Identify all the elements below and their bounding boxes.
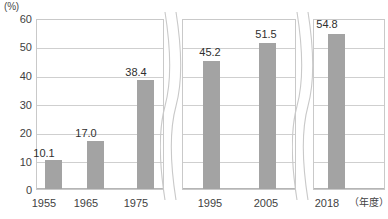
x-tick-2005: 2005 — [243, 197, 289, 209]
gridline-30 — [183, 105, 295, 106]
bar-label-1955: 10.1 — [24, 147, 64, 159]
bar-label-2018: 54.8 — [307, 18, 347, 30]
y-tick-20: 20 — [4, 128, 32, 139]
y-tick-30: 30 — [4, 100, 32, 111]
gridline-40 — [314, 77, 384, 78]
x-tick-1955: 1955 — [21, 197, 67, 209]
baseline-0 — [314, 188, 384, 189]
bar-chart: (%) 60 50 40 30 20 10 0 10.1 17.0 38.4 — [0, 0, 388, 219]
y-tick-50: 50 — [4, 42, 32, 53]
gridline-10 — [183, 162, 295, 163]
y-tick-40: 40 — [4, 71, 32, 82]
gridline-50 — [314, 48, 384, 49]
y-tick-0: 0 — [4, 185, 32, 196]
bar-label-2005: 51.5 — [246, 28, 286, 40]
x-tick-1975: 1975 — [113, 197, 159, 209]
bar-label-1995: 45.2 — [190, 46, 230, 58]
chart-panel-3 — [313, 19, 385, 190]
x-tick-1965: 1965 — [63, 197, 109, 209]
x-tick-2018: 2018 — [304, 197, 350, 209]
bar-label-1965: 17.0 — [66, 127, 106, 139]
gridline-50 — [37, 48, 163, 49]
y-tick-60: 60 — [4, 14, 32, 25]
bar-2018 — [328, 34, 345, 189]
bar-1965 — [87, 141, 104, 189]
bar-2005 — [259, 43, 276, 189]
bar-1955 — [45, 160, 62, 189]
bar-label-1975: 38.4 — [116, 66, 156, 78]
gridline-10 — [314, 162, 384, 163]
y-axis-tick-labels: 60 50 40 30 20 10 0 — [0, 0, 32, 219]
gridline-20 — [183, 134, 295, 135]
chart-panel-2 — [182, 19, 296, 190]
baseline-0 — [183, 188, 295, 189]
bar-1975 — [137, 80, 154, 189]
gridline-20 — [314, 134, 384, 135]
bar-1995 — [203, 61, 220, 189]
x-tick-1995: 1995 — [187, 197, 233, 209]
x-axis-title: （年度） — [349, 197, 388, 209]
gridline-30 — [314, 105, 384, 106]
chart-panel-1 — [36, 19, 164, 190]
gridline-40 — [183, 77, 295, 78]
